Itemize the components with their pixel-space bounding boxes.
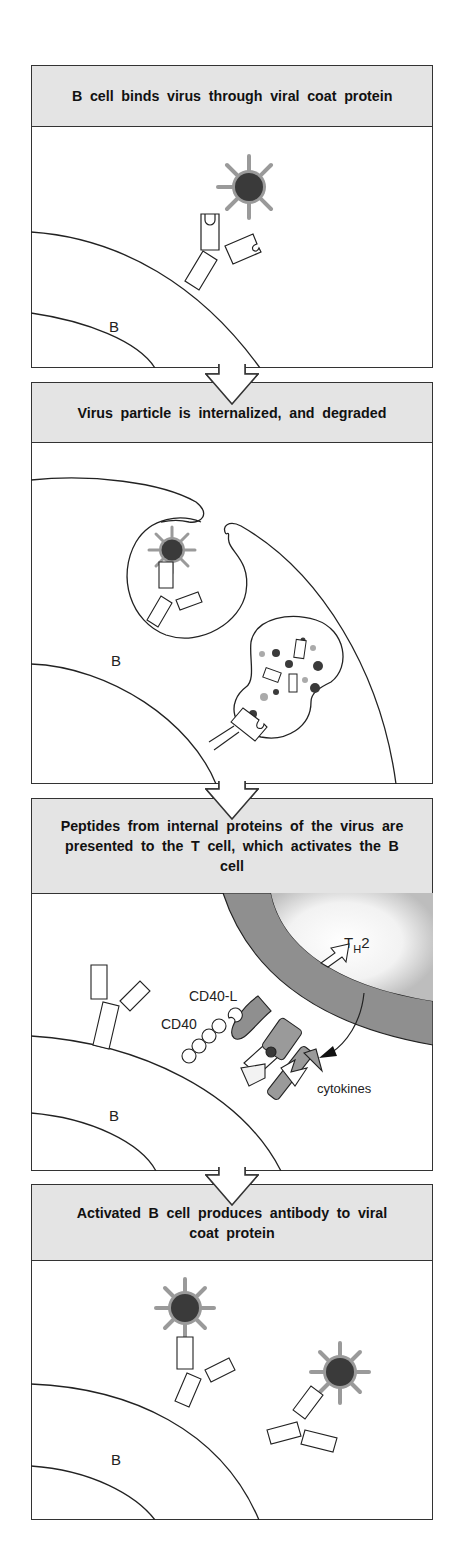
- arrowhead-icon: [319, 1046, 337, 1058]
- b-cell-nucleus: [31, 1113, 156, 1171]
- antibody-icon: [91, 965, 150, 1049]
- cytokines-label: cytokines: [317, 1081, 372, 1096]
- cd40-label: CD40: [161, 1016, 197, 1032]
- b-cell-label: B: [109, 318, 119, 335]
- flow-arrow-1-tip: [205, 364, 259, 406]
- b-cell-nucleus: [31, 1466, 155, 1520]
- antibody-icon: [185, 214, 261, 290]
- panel-2-diagram: B: [31, 442, 433, 784]
- antibody-fragment-icon: [209, 708, 267, 750]
- flow-arrow-2-tip: [205, 781, 259, 821]
- antibody-icon: [267, 1386, 337, 1452]
- degraded-fragments: [249, 638, 323, 719]
- panel-3-title: Peptides from internal proteins of the v…: [59, 816, 405, 876]
- cd40l-label: CD40-L: [189, 988, 237, 1004]
- b-cell-label: B: [109, 1107, 119, 1124]
- panel-1-diagram: B: [31, 126, 433, 368]
- virus-icon: [156, 1279, 214, 1339]
- antibody-icon: [175, 1337, 235, 1407]
- panel-3-diagram: TH2 B CD40-L CD40 cytokines: [31, 893, 433, 1171]
- b-cell-nucleus: [31, 664, 216, 784]
- b-cell-membrane: [31, 232, 260, 368]
- panel-4-title: Activated B cell produces antibody to vi…: [59, 1203, 405, 1243]
- antibody-icon: [147, 562, 202, 627]
- b-cell-label: B: [111, 652, 121, 669]
- panel-1-title: B cell binds virus through viral coat pr…: [72, 86, 393, 106]
- b-cell-membrane: [31, 1036, 281, 1171]
- b-cell-nucleus: [31, 313, 155, 368]
- flow-arrow-3-tip: [205, 1167, 259, 1207]
- panel-4-diagram: B: [31, 1260, 433, 1520]
- panel-1-header: B cell binds virus through viral coat pr…: [31, 65, 433, 127]
- virus-icon: [218, 156, 271, 218]
- b-cell-label: B: [111, 1451, 121, 1468]
- b-cell-membrane: [31, 1384, 259, 1520]
